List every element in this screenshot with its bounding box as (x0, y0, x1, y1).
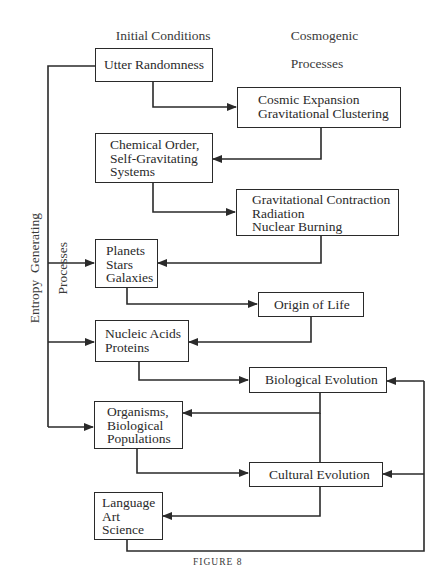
box-text: Organisms, (107, 405, 182, 419)
box-language-art-science: Language Art Science (94, 492, 163, 540)
box-utter-randomness: Utter Randomness (95, 48, 213, 82)
side-label-line-1: Entropy Generating (27, 213, 42, 323)
edge-utter-to-cosmic (153, 81, 236, 107)
edge-chemical-to-gravcontraction (153, 182, 235, 212)
box-planets-stars-galaxies: Planets Stars Galaxies (95, 239, 158, 288)
box-text: Art (102, 510, 162, 524)
edge-nucleic-to-bioevo (139, 361, 248, 380)
box-text: Utter Randomness (104, 58, 212, 72)
edge-origin-to-nucleic (189, 316, 311, 342)
box-organisms-populations: Organisms, Biological Populations (94, 401, 183, 449)
box-text: Nucleic Acids (105, 327, 188, 341)
box-text: Proteins (105, 341, 188, 355)
box-origin-of-life: Origin of Life (258, 292, 364, 317)
box-text: Biological Evolution (265, 373, 386, 387)
box-text: Gravitational Contraction (252, 193, 398, 207)
box-text: Planets (106, 244, 157, 258)
edge-gravcontraction-to-planets (158, 235, 321, 263)
figure-caption: FIGURE 8 (193, 557, 242, 567)
box-text: Language (102, 496, 162, 510)
box-text: Cosmic Expansion (258, 93, 400, 107)
box-cosmic-expansion: Cosmic Expansion Gravitational Clusterin… (237, 87, 401, 128)
edge-cosmic-to-chemical (213, 127, 321, 159)
edge-planets-to-origin (127, 287, 257, 304)
box-text: Biological (107, 419, 182, 433)
entropy-generating-processes-label: Entropy Generating Processes (14, 213, 70, 330)
box-nucleic-acids-proteins: Nucleic Acids Proteins (95, 320, 189, 362)
header-right-line-1: Cosmogenic (291, 28, 359, 43)
box-text: Radiation (252, 207, 398, 221)
box-text: Systems (110, 165, 212, 179)
box-text: Cultural Evolution (269, 468, 382, 482)
box-text: Chemical Order, (110, 138, 212, 152)
box-text: Stars (106, 258, 157, 272)
header-cosmogenic-processes: Cosmogenic Processes (284, 15, 358, 71)
box-gravitational-contraction: Gravitational Contraction Radiation Nucl… (236, 189, 399, 236)
header-left-line-1: Initial Conditions (116, 28, 211, 43)
box-text: Origin of Life (274, 298, 363, 312)
box-text: Populations (107, 432, 182, 446)
box-cultural-evolution: Cultural Evolution (249, 462, 383, 487)
side-label-line-2: Processes (55, 242, 70, 295)
box-chemical-order: Chemical Order, Self-Gravitating Systems (95, 133, 213, 183)
edge-cultural-to-language (163, 486, 320, 516)
box-text: Gravitational Clustering (258, 107, 400, 121)
box-text: Galaxies (106, 271, 157, 285)
edge-bioevo-to-organisms (183, 392, 320, 413)
box-text: Science (102, 523, 162, 537)
edge-organisms-to-cultural (137, 448, 248, 473)
header-right-line-2: Processes (291, 56, 344, 71)
box-text: Nuclear Burning (252, 220, 398, 234)
box-text: Self-Gravitating (110, 152, 212, 166)
box-biological-evolution: Biological Evolution (249, 367, 387, 393)
